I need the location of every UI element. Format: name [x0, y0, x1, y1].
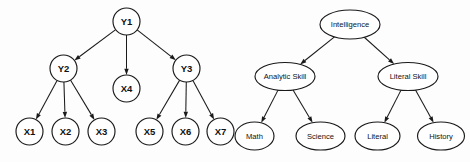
edge-Y2-to-X2 — [64, 82, 65, 112]
arrowhead-icon-LiteralSkill-to-Literal — [384, 116, 389, 123]
left-diagram-nodes: Y1Y2X4Y3X1X2X3X5X6X7 — [16, 8, 234, 145]
node-label-analyticskill: Analytic Skill — [264, 72, 307, 81]
arrowhead-icon-Y3-to-X5 — [156, 113, 161, 119]
node-math[interactable]: Math — [235, 122, 274, 150]
edge-Y2-to-X3 — [70, 80, 91, 115]
node-label-x7: X7 — [215, 126, 227, 137]
node-label-x2: X2 — [60, 126, 72, 137]
edge-AnalyticSkill-to-Science — [293, 90, 309, 117]
node-label-x3: X3 — [96, 126, 108, 137]
node-label-math: Math — [246, 132, 263, 141]
node-label-y3: Y3 — [181, 63, 193, 74]
node-literalskill[interactable]: Literal Skill — [378, 63, 438, 91]
node-x3[interactable]: X3 — [88, 118, 115, 145]
edge-AnalyticSkill-to-Math — [264, 90, 278, 117]
node-x5[interactable]: X5 — [136, 118, 163, 145]
node-y3[interactable]: Y3 — [173, 55, 200, 82]
edge-Y2-to-X1 — [39, 80, 57, 114]
edge-Y3-to-X5 — [159, 80, 179, 114]
arrowhead-icon-AnalyticSkill-to-Science — [308, 116, 313, 122]
node-label-science: Science — [307, 132, 334, 141]
node-x6[interactable]: X6 — [172, 118, 199, 145]
diagram-svg: Y1Y2X4Y3X1X2X3X5X6X7 IntelligenceAnalyti… — [0, 0, 470, 162]
arrowhead-icon-AnalyticSkill-to-Math — [261, 116, 266, 123]
node-label-x4: X4 — [121, 83, 133, 94]
figure-canvas: Y1Y2X4Y3X1X2X3X5X6X7 IntelligenceAnalyti… — [0, 0, 470, 162]
node-label-x5: X5 — [144, 126, 156, 137]
arrowhead-icon-Y3-to-X7 — [209, 113, 214, 120]
node-label-intelligence: Intelligence — [331, 20, 369, 29]
node-x7[interactable]: X7 — [207, 118, 234, 145]
node-y1[interactable]: Y1 — [113, 8, 140, 35]
node-label-literalskill: Literal Skill — [390, 72, 427, 81]
node-label-x1: X1 — [24, 126, 36, 137]
arrowhead-icon-LiteralSkill-to-History — [429, 116, 434, 122]
arrowhead-icon-Y2-to-X1 — [36, 113, 41, 120]
node-y2[interactable]: Y2 — [50, 55, 77, 82]
node-literal[interactable]: Literal — [355, 122, 400, 150]
node-intelligence[interactable]: Intelligence — [320, 10, 380, 39]
edge-Y3-to-X7 — [193, 80, 211, 114]
edge-Intelligence-to-AnalyticSkill — [305, 37, 335, 61]
arrowhead-icon-Y2-to-X2 — [63, 112, 67, 118]
arrowhead-icon-Y3-to-X6 — [184, 112, 188, 118]
node-science[interactable]: Science — [296, 122, 345, 150]
arrowhead-icon-Y2-to-X3 — [89, 113, 94, 119]
edge-LiteralSkill-to-Literal — [387, 90, 401, 117]
node-x1[interactable]: X1 — [16, 118, 43, 145]
node-label-x6: X6 — [180, 126, 192, 137]
right-diagram-nodes: IntelligenceAnalytic SkillLiteral SkillM… — [235, 10, 465, 150]
node-x4[interactable]: X4 — [113, 75, 140, 102]
edge-Intelligence-to-LiteralSkill — [364, 37, 389, 60]
node-label-y2: Y2 — [58, 63, 70, 74]
edge-Y1-to-Y3 — [137, 30, 171, 57]
node-history[interactable]: History — [418, 122, 465, 150]
arrowhead-icon-Y1-to-Y2 — [74, 55, 80, 60]
node-x2[interactable]: X2 — [52, 118, 79, 145]
edge-Y1-to-Y2 — [79, 30, 115, 57]
edge-LiteralSkill-to-History — [416, 90, 431, 117]
node-label-y1: Y1 — [121, 16, 133, 27]
node-label-history: History — [429, 132, 453, 141]
node-label-literal: Literal — [367, 132, 388, 141]
arrowhead-icon-Y1-to-X4 — [124, 69, 128, 75]
node-analyticskill[interactable]: Analytic Skill — [255, 63, 315, 91]
